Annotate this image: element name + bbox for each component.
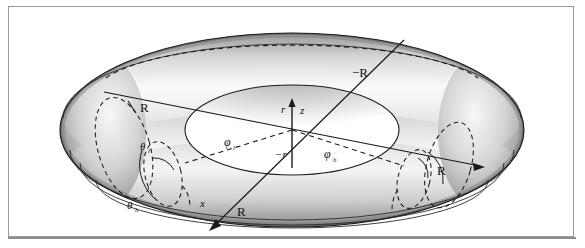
label-x-axis: x <box>199 197 205 209</box>
label-phi-h-symbol: φ <box>324 147 331 161</box>
label-R-left: R <box>140 100 149 115</box>
label-theta-l-symbol: θ <box>140 140 146 152</box>
torus-diagram: R −R R R x z r −r φ l φ h θ l <box>0 0 585 248</box>
label-R-bottom: R <box>237 204 246 219</box>
label-r-positive: r <box>281 103 286 115</box>
label-r-negative: −r <box>275 148 287 160</box>
label-phi-l-subscript: l <box>233 144 235 152</box>
label-theta-l-subscript: l <box>148 147 150 155</box>
label-z-axis: z <box>299 104 305 116</box>
label-phi-l-symbol: φ <box>224 135 231 149</box>
label-theta-h-subscript: h <box>135 206 139 214</box>
label-theta-h-symbol: θ <box>127 199 133 211</box>
label-R-right: R <box>437 163 446 178</box>
label-phi-h-subscript: h <box>333 156 337 164</box>
figure-container: R −R R R x z r −r φ l φ h θ l <box>0 0 585 248</box>
label-negative-R-top: −R <box>352 65 368 80</box>
